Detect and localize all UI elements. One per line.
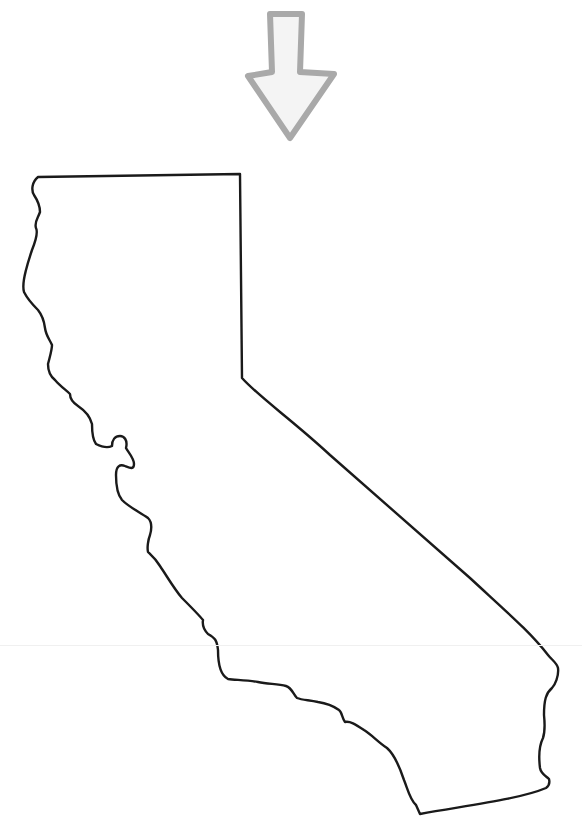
down-arrow-icon [248,14,334,138]
map-canvas: California [0,0,582,828]
scan-line [0,645,582,646]
california-outline [23,174,558,814]
